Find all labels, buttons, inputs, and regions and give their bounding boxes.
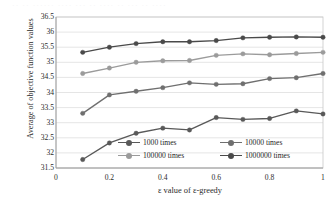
data-point-marker [321,71,325,75]
data-point-marker [134,60,138,64]
x-axis-title: ε value of ε-greedy [56,186,324,195]
data-point-marker [134,89,138,93]
data-point-marker [241,36,245,40]
data-point-marker [81,111,85,115]
data-point-marker [161,126,165,130]
data-point-marker [107,93,111,97]
legend-marker-icon [220,151,242,160]
data-point-marker [161,40,165,44]
legend-label: 1000000 times [245,151,290,160]
data-point-marker [214,82,218,86]
data-point-marker [321,50,325,54]
data-point-marker [294,109,298,113]
data-point-marker [214,115,218,119]
legend-item[interactable]: 1000000 times [220,151,322,160]
data-point-marker [214,38,218,42]
legend-marker-icon [118,151,140,160]
legend-marker-icon [220,138,242,147]
data-point-marker [321,35,325,39]
data-point-marker [187,58,191,62]
data-point-marker [241,52,245,56]
data-point-marker [81,71,85,75]
data-point-marker [81,50,85,54]
plot-area [0,0,334,203]
data-point-marker [161,85,165,89]
chart-figure: ·· ·· ······ ···· ··· ·· ···· ·· ··· ·· … [0,0,334,203]
data-point-marker [241,117,245,121]
data-point-marker [187,128,191,132]
legend-label: 100000 times [143,151,184,160]
legend-item[interactable]: 100000 times [118,151,220,160]
data-point-marker [267,35,271,39]
data-point-marker [241,82,245,86]
data-point-marker [294,35,298,39]
data-point-marker [321,112,325,116]
chart-legend: 1000 times10000 times100000 times1000000… [118,136,322,162]
data-point-marker [187,40,191,44]
data-point-marker [214,53,218,57]
legend-label: 1000 times [143,138,177,147]
data-point-marker [107,45,111,49]
data-point-marker [267,116,271,120]
legend-marker-icon [118,138,140,147]
data-point-marker [107,66,111,70]
data-point-marker [267,53,271,57]
data-point-marker [134,131,138,135]
legend-label: 10000 times [245,138,282,147]
legend-item[interactable]: 10000 times [220,138,322,147]
legend-item[interactable]: 1000 times [118,138,220,147]
data-point-marker [187,81,191,85]
data-point-marker [294,76,298,80]
data-point-marker [267,76,271,80]
series-line [83,37,323,52]
data-point-marker [134,41,138,45]
data-point-marker [81,157,85,161]
data-point-marker [107,141,111,145]
data-point-marker [161,59,165,63]
data-point-marker [294,51,298,55]
series-line [83,52,323,73]
